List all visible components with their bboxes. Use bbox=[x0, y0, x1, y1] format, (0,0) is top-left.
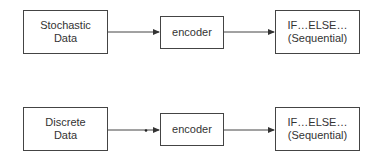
output-label-line1: IF…ELSE… bbox=[288, 116, 348, 129]
encoder-box: encoder bbox=[160, 16, 224, 49]
encoder-box: encoder bbox=[160, 113, 224, 146]
output-label-line2: (Sequential) bbox=[288, 129, 348, 142]
discrete-data-box: Discrete Data bbox=[23, 107, 108, 151]
if-else-sequential-box: IF…ELSE… (Sequential) bbox=[275, 10, 360, 54]
encoder-label: encoder bbox=[172, 26, 212, 39]
encoder-label: encoder bbox=[172, 123, 212, 136]
if-else-sequential-box: IF…ELSE… (Sequential) bbox=[275, 107, 360, 151]
source-label-line2: Data bbox=[45, 129, 85, 142]
source-label-line2: Data bbox=[40, 32, 91, 45]
output-label-line2: (Sequential) bbox=[288, 32, 348, 45]
output-label-line1: IF…ELSE… bbox=[288, 19, 348, 32]
source-label-line1: Stochastic bbox=[40, 19, 91, 32]
source-label-line1: Discrete bbox=[45, 116, 85, 129]
discrete-dot bbox=[145, 129, 148, 132]
stochastic-data-box: Stochastic Data bbox=[23, 10, 108, 54]
